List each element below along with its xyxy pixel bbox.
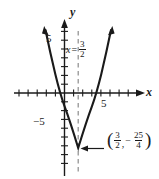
vertex-x-denominator: 2 <box>114 140 121 150</box>
vertex-open-paren: ( <box>107 132 113 148</box>
vertex-y-denominator: 4 <box>135 140 142 150</box>
vertex-y-numerator: 25 <box>133 131 144 140</box>
vertex-x-fraction: 3 2 <box>114 131 121 150</box>
x-axis <box>14 90 145 97</box>
vertex-callout-arrow <box>81 145 105 151</box>
graph-canvas <box>0 0 159 179</box>
axis-of-symmetry-label: x = 3 2 <box>66 40 87 59</box>
symmetry-denominator: 2 <box>79 49 86 59</box>
vertex-comma: , <box>122 139 125 150</box>
parabola-figure: y x 5 −5 5 x = 3 2 ( 3 2 , − 25 4 ) <box>0 0 159 179</box>
y-tick-label-5: 5 <box>46 33 52 44</box>
vertex-x-numerator: 3 <box>114 131 121 140</box>
symmetry-equals: = <box>71 45 77 55</box>
y-tick-label-minus-5: −5 <box>33 116 45 127</box>
vertex-close-paren: ) <box>145 132 151 148</box>
y-axis-label: y <box>70 6 75 18</box>
vertex-coordinate-label: ( 3 2 , − 25 4 ) <box>107 131 151 150</box>
vertex-minus-sign: − <box>125 136 131 146</box>
symmetry-fraction: 3 2 <box>79 40 86 59</box>
x-tick-label-5: 5 <box>101 98 107 109</box>
vertex-y-fraction: 25 4 <box>133 131 144 150</box>
symmetry-numerator: 3 <box>79 40 86 49</box>
x-axis-label: x <box>146 86 152 98</box>
symmetry-variable: x <box>66 45 70 55</box>
